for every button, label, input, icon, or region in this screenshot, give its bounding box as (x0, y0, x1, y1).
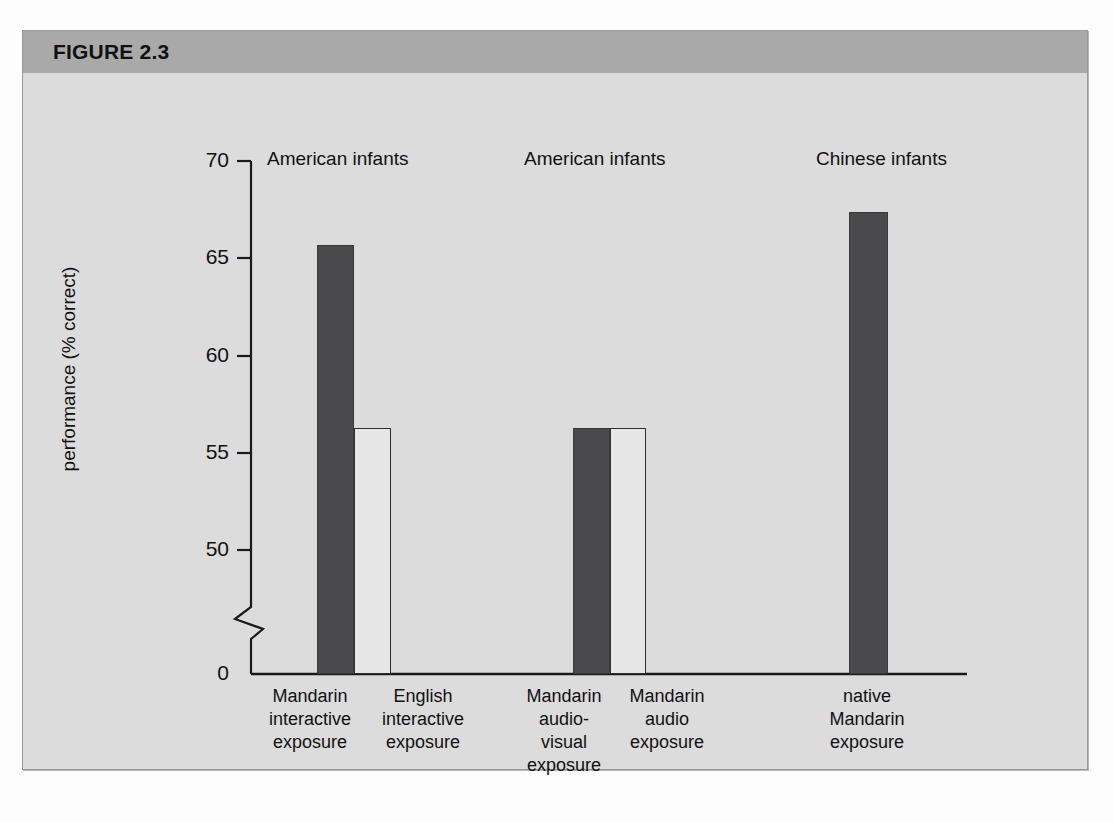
y-tick-label-0: 0 (175, 661, 229, 685)
y-tick-label-50: 50 (175, 537, 229, 561)
group-header-2: American infants (524, 148, 666, 170)
category-line: native (812, 685, 922, 708)
category-line: Mandarin (615, 685, 719, 708)
figure-panel: FIGURE 2.3 performance (% correct) (22, 30, 1088, 770)
category-line: audio- (512, 708, 616, 731)
category-line: visual (512, 731, 616, 754)
y-tick-label-55: 55 (175, 440, 229, 464)
y-tick-label-60: 60 (175, 343, 229, 367)
category-line: Mandarin (512, 685, 616, 708)
category-line: exposure (255, 731, 365, 754)
y-tick-label-70: 70 (175, 148, 229, 172)
y-tick-label-65: 65 (175, 245, 229, 269)
category-label-mandarin-audio-visual-exposure: Mandarin audio- visual exposure (512, 685, 616, 777)
category-line: Mandarin (255, 685, 365, 708)
bar-mandarin-interactive-exposure (317, 245, 354, 674)
bar-mandarin-audio-exposure (610, 428, 646, 674)
group-header-3: Chinese infants (816, 148, 947, 170)
bar-native-mandarin-exposure (849, 212, 888, 674)
category-label-mandarin-audio-exposure: Mandarin audio exposure (615, 685, 719, 754)
category-line: English (368, 685, 478, 708)
category-line: interactive (255, 708, 365, 731)
figure-header-band: FIGURE 2.3 (23, 31, 1087, 73)
bar-english-interactive-exposure (354, 428, 391, 674)
category-line: exposure (812, 731, 922, 754)
category-line: audio (615, 708, 719, 731)
bar-mandarin-audio-visual-exposure (573, 428, 610, 674)
figure-number-label: FIGURE 2.3 (53, 40, 169, 64)
category-line: interactive (368, 708, 478, 731)
chart-plot-area: performance (% correct) 70 (23, 73, 1087, 771)
category-label-mandarin-interactive-exposure: Mandarin interactive exposure (255, 685, 365, 754)
category-line: exposure (368, 731, 478, 754)
category-line: exposure (615, 731, 719, 754)
category-label-native-mandarin-exposure: native Mandarin exposure (812, 685, 922, 754)
category-label-english-interactive-exposure: English interactive exposure (368, 685, 478, 754)
category-line: exposure (512, 754, 616, 777)
group-header-1: American infants (267, 148, 409, 170)
page-background: FIGURE 2.3 performance (% correct) (0, 0, 1114, 822)
category-line: Mandarin (812, 708, 922, 731)
